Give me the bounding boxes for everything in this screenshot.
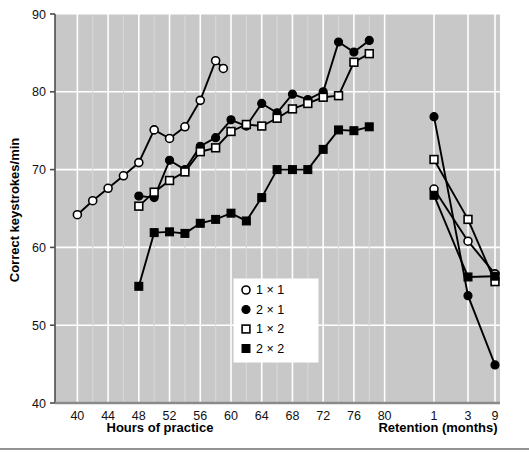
- y-tick-label: 40: [32, 397, 46, 411]
- data-point: [289, 105, 297, 113]
- data-point: [464, 237, 472, 245]
- data-point: [104, 184, 112, 192]
- data-point: [212, 134, 220, 142]
- legend-marker: [242, 306, 250, 314]
- data-point: [135, 159, 143, 167]
- data-point: [227, 116, 235, 124]
- data-point: [181, 123, 189, 131]
- y-axis-title: Correct keystrokes/min: [7, 138, 22, 283]
- legend-marker: [242, 345, 250, 353]
- data-point: [273, 166, 281, 174]
- data-point: [119, 172, 127, 180]
- data-point: [150, 126, 158, 134]
- data-point: [135, 282, 143, 290]
- legend-label: 2 × 2: [256, 342, 284, 356]
- data-point: [319, 93, 327, 101]
- data-point: [350, 48, 358, 56]
- chart-figure: 405060708090 4044485256606468727680139 1…: [0, 0, 529, 452]
- x-tick-label-practice: 72: [316, 409, 330, 423]
- data-point: [181, 229, 189, 237]
- x-axis-title: Hours of practice: [107, 420, 214, 435]
- data-point: [365, 123, 373, 131]
- data-point: [212, 144, 220, 152]
- data-point: [430, 156, 438, 164]
- data-point: [212, 215, 220, 223]
- x-axis-title-retention: Retention (months): [378, 420, 497, 435]
- chart-legend: 1 × 12 × 11 × 22 × 2: [234, 279, 318, 362]
- legend-label: 2 × 1: [256, 303, 284, 317]
- data-point: [196, 148, 204, 156]
- data-point: [365, 50, 373, 58]
- data-point: [258, 99, 266, 107]
- data-point: [304, 100, 312, 108]
- data-point: [242, 217, 250, 225]
- data-point: [335, 92, 343, 100]
- data-point: [335, 38, 343, 46]
- data-point: [227, 128, 235, 136]
- data-point: [242, 121, 250, 129]
- data-point: [196, 96, 204, 104]
- data-point: [335, 126, 343, 134]
- data-point: [430, 113, 438, 121]
- data-point: [350, 127, 358, 135]
- data-point: [464, 292, 472, 300]
- data-point: [89, 197, 97, 205]
- x-tick-label-practice: 64: [255, 409, 269, 423]
- y-tick-label: 50: [32, 319, 46, 333]
- data-point: [150, 229, 158, 237]
- x-tick-label-practice: 60: [224, 409, 238, 423]
- data-point: [135, 202, 143, 210]
- data-point: [219, 64, 227, 72]
- y-tick-label: 90: [32, 8, 46, 22]
- legend-label: 1 × 1: [256, 283, 284, 297]
- data-point: [166, 156, 174, 164]
- data-point: [181, 168, 189, 176]
- data-point: [166, 177, 174, 185]
- data-point: [350, 58, 358, 66]
- data-point: [491, 361, 499, 369]
- data-point: [258, 122, 266, 130]
- data-point: [227, 209, 235, 217]
- data-point: [464, 273, 472, 281]
- data-point: [166, 134, 174, 142]
- data-point: [288, 90, 296, 98]
- data-point: [135, 192, 143, 200]
- y-tick-label: 60: [32, 241, 46, 255]
- data-point: [289, 166, 297, 174]
- legend-marker: [242, 325, 250, 333]
- data-point: [430, 191, 438, 199]
- x-tick-label-practice: 68: [286, 409, 300, 423]
- data-point: [258, 194, 266, 202]
- legend-marker: [242, 286, 250, 294]
- x-tick-label-practice: 40: [70, 409, 84, 423]
- data-point: [73, 211, 81, 219]
- keystrokes-practice-retention-chart: 405060708090 4044485256606468727680139 1…: [0, 0, 529, 452]
- data-point: [464, 215, 472, 223]
- data-point: [273, 114, 281, 122]
- x-tick-label-practice: 76: [347, 409, 361, 423]
- y-tick-label: 70: [32, 163, 46, 177]
- data-point: [212, 57, 220, 65]
- data-point: [319, 145, 327, 153]
- data-point: [196, 219, 204, 227]
- data-point: [365, 36, 373, 44]
- data-point: [166, 228, 174, 236]
- legend-label: 1 × 2: [256, 322, 284, 336]
- data-point: [150, 188, 158, 196]
- y-tick-label: 80: [32, 85, 46, 99]
- data-point: [491, 272, 499, 280]
- data-point: [304, 166, 312, 174]
